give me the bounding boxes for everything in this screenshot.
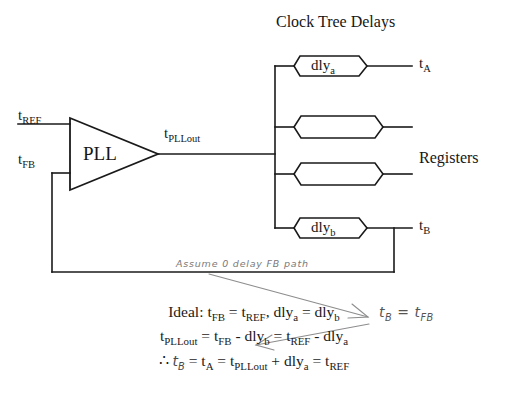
tb-sub: B [423, 225, 430, 236]
eq-line3-term-8-sub: REF [329, 360, 349, 372]
dly-a-base: dly [311, 57, 330, 73]
eq-line2-term-4-base: dly [244, 327, 264, 344]
signal-label-tfb: tFB [18, 152, 35, 171]
tfb-sub: FB [22, 159, 35, 170]
eq-line1-term-2: tREF [241, 303, 265, 320]
eq-line2-term-8-base: dly [323, 327, 343, 344]
signal-label-tpllout: tPLLout [164, 126, 200, 145]
eq-line2-term-2-sub: FB [218, 336, 231, 348]
clock-tree-delay-figure: Clock Tree Delays Registers tREF tFB tPL… [0, 0, 508, 398]
eq-line2-term-8-sub: a [343, 336, 348, 348]
eq-line1-term-4: dlya [273, 303, 298, 320]
eq-line2-term-2: tFB [214, 327, 232, 344]
dly-a-label: dlya [311, 57, 335, 77]
tpllout-sub: PLLout [168, 133, 200, 144]
eq-line2-op-7: - [310, 327, 323, 344]
delay-block-3 [294, 163, 383, 185]
eq-line3-term-0-sub: B [178, 361, 185, 372]
eq-line2-term-6-sub: REF [291, 336, 311, 348]
eq-line2-term-6: tREF [286, 327, 310, 344]
eq-line1-term-6-base: dly [315, 303, 335, 320]
eq-line1-term-4-base: dly [273, 303, 293, 320]
eq-line2-op-1: = [197, 327, 214, 344]
eq-line2-term-0-sub: PLLout [164, 336, 197, 348]
eq-line3-prefix: ∴ [159, 352, 173, 369]
eq-line3-op-3: = [213, 352, 230, 369]
registers-label: Registers [419, 150, 479, 166]
figure-title: Clock Tree Delays [276, 14, 395, 30]
eq-line3-term-6: dlya [284, 352, 309, 369]
eq-line2-term-0: tPLLout [160, 327, 197, 344]
eq-line3-term-4: tPLLout [230, 352, 267, 369]
equation-block: Ideal: tFB = tREF, dlya = dlyb tPLLout =… [0, 300, 508, 373]
eq-line3-term-2: tA [201, 352, 213, 369]
eq-line3-term-4-sub: PLLout [234, 360, 267, 372]
eq-line1-term-6-sub: b [334, 311, 339, 323]
eq-line2-op-5: = [270, 327, 287, 344]
dly-b-label: dlyb [311, 219, 335, 239]
eq-line2-term-4: dlyb [244, 327, 269, 344]
eq-line3-op-5: + [267, 352, 284, 369]
equation-line-1: Ideal: tFB = tREF, dlya = dlyb [0, 300, 508, 324]
tref-sub: REF [22, 115, 41, 126]
handwritten-assume-note: Assume 0 delay FB path [176, 258, 309, 269]
delay-block-2 [294, 116, 383, 138]
eq-line1-term-0-sub: FB [212, 311, 225, 323]
eq-line1-op-5: = [298, 303, 315, 320]
eq-line1-prefix: Ideal: [168, 303, 207, 320]
equation-line-3: ∴ tB = tA = tPLLout + dlya = tREF [0, 349, 508, 373]
eq-line3-op-7: = [309, 352, 326, 369]
signal-label-tb: tB [419, 218, 430, 237]
eq-line1-term-2-sub: REF [246, 311, 266, 323]
dly-b-base: dly [311, 219, 330, 235]
eq-line2-op-3: - [232, 327, 245, 344]
eq-line1-term-0: tFB [207, 303, 225, 320]
dly-b-sub: b [330, 227, 335, 238]
equation-line-2: tPLLout = tFB - dlyb = tREF - dlya [0, 324, 508, 348]
eq-line3-term-0: tB [173, 353, 185, 369]
eq-line1-op-1: = [225, 303, 242, 320]
ta-sub: A [423, 63, 431, 74]
dly-a-sub: a [330, 65, 335, 76]
eq-line3-op-1: = [185, 352, 202, 369]
eq-line3-term-8: tREF [325, 352, 349, 369]
pll-block-label: PLL [83, 144, 117, 163]
eq-line1-term-6: dlyb [315, 303, 340, 320]
signal-label-ta: tA [419, 56, 431, 75]
signal-label-tref: tREF [18, 108, 41, 127]
eq-line2-term-8: dlya [323, 327, 348, 344]
eq-line3-term-6-base: dly [284, 352, 304, 369]
